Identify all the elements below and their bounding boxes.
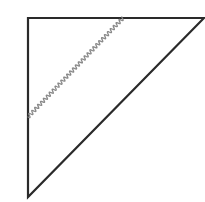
diagram-background — [0, 0, 205, 202]
triangle-diagram — [0, 0, 205, 202]
